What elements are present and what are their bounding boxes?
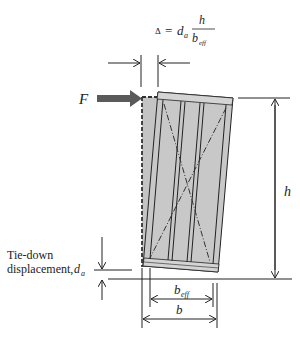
beff-label: b [174, 282, 181, 297]
tiedown-label-line1: Tie-down [7, 248, 53, 262]
shear-wall-diagram: Δ = d a h b eff F [0, 0, 300, 339]
force-arrow-icon [97, 90, 142, 107]
deflection-equation: Δ = d a h b eff [155, 13, 215, 47]
equals-sign: = [165, 23, 172, 38]
numerator-h: h [199, 13, 205, 27]
width-dimensions [142, 268, 217, 328]
b-label: b [176, 302, 183, 317]
height-dimension [238, 98, 290, 278]
delta-symbol: Δ [155, 26, 161, 36]
denominator-subscript: eff [199, 39, 207, 47]
deflected-panel [143, 92, 233, 272]
height-label: h [284, 184, 291, 199]
tiedown-subscript: a [81, 269, 85, 278]
deflection-dimension [108, 55, 190, 87]
tiedown-label-line2: displacement, [7, 262, 73, 276]
da-subscript: a [184, 31, 188, 40]
force-label: F [78, 91, 89, 107]
beff-subscript: eff [181, 290, 191, 299]
denominator-b: b [192, 31, 198, 45]
tiedown-symbol: d [74, 262, 81, 276]
da-symbol: d [177, 23, 184, 38]
